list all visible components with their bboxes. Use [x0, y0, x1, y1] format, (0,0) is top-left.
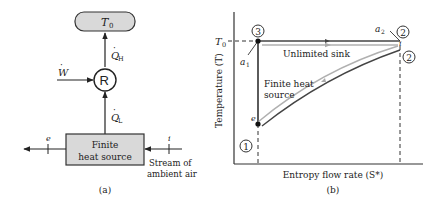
i-label: i: [399, 39, 402, 48]
heat-high-dot: ·: [113, 43, 116, 53]
diagram-canvas: T 0 Q · H R W · Q · L Finite heat source: [0, 0, 443, 207]
work-dot: ·: [60, 60, 63, 70]
a2-subscript: 2: [381, 28, 385, 35]
y-axis-label: Temperature (T): [214, 53, 224, 128]
heat-high-subscript: H: [118, 55, 124, 63]
stream-label-line1: Stream of: [149, 158, 192, 168]
heat-source-line2: heat source: [78, 152, 131, 162]
sink-subscript: 0: [109, 22, 113, 30]
x-axis-label: Entropy flow rate (S*): [283, 170, 384, 180]
refrigerator: R: [94, 69, 116, 91]
heat-source-box: Finite heat source: [66, 134, 144, 165]
caption-a: (a): [99, 185, 111, 195]
point-3: [255, 38, 260, 43]
e-label: e: [251, 114, 256, 123]
finite-source-label-line2: source: [264, 90, 295, 100]
caption-b: (b): [327, 185, 340, 195]
state-2-top-label: 2: [400, 28, 406, 38]
state-2-bottom-label: 2: [406, 53, 412, 63]
state-2-top: 2: [397, 26, 409, 38]
unlimited-sink-label: Unlimited sink: [283, 49, 350, 59]
panel-a: T 0 Q · H R W · Q · L Finite heat source: [24, 12, 198, 195]
cycle-arrow-top: [325, 39, 330, 43]
a1-subscript: 1: [246, 61, 250, 68]
state-2-bottom: 2: [403, 51, 415, 63]
finite-source-label-line1: Finite heat: [264, 79, 314, 89]
a1-label: a: [240, 57, 245, 67]
heat-source-line1: Finite: [92, 140, 119, 150]
point-1: [255, 121, 260, 126]
stream-label-line2: ambient air: [147, 169, 198, 179]
heat-low-subscript: L: [118, 117, 123, 125]
heat-low-dot: ·: [113, 105, 116, 115]
state-1: 1: [240, 140, 252, 152]
panel-b: T 0 a 1 a 2 i e 3: [214, 12, 423, 195]
refrigerator-label: R: [100, 73, 109, 88]
t0-subscript: 0: [222, 41, 226, 49]
sink-arrow: [325, 43, 331, 47]
state-3: 3: [252, 25, 264, 37]
state-3-label: 3: [255, 27, 261, 37]
sink-reservoir: T 0: [75, 12, 135, 31]
a2-label: a: [375, 24, 380, 34]
inlet-state-label: i: [168, 134, 171, 143]
state-1-label: 1: [243, 142, 249, 152]
exit-state-label: e: [46, 134, 51, 143]
